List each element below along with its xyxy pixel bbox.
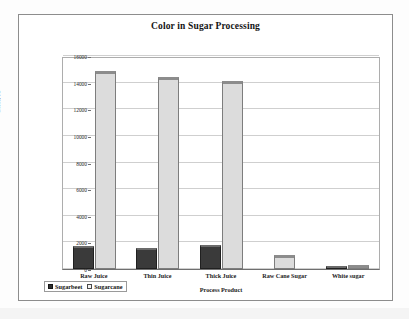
bar-sugarcane bbox=[274, 255, 295, 269]
y-axis-tick-mark bbox=[88, 217, 91, 218]
legend-swatch-sugarbeet bbox=[48, 284, 53, 289]
x-axis-category-labels: Raw JuiceThin JuiceThick JuiceRaw Cane S… bbox=[62, 272, 380, 279]
y-axis-tick-mark bbox=[88, 243, 91, 244]
bar-sugarbeet bbox=[136, 248, 157, 269]
y-axis-tick-mark bbox=[88, 190, 91, 191]
y-axis-tick-label: 2000 bbox=[76, 240, 87, 246]
plot-area bbox=[62, 57, 380, 270]
gridline bbox=[63, 55, 379, 56]
x-axis-tick-label: Thin Juice bbox=[126, 272, 190, 279]
y-axis-tick-mark bbox=[88, 164, 91, 165]
legend-label: Sugarcane bbox=[94, 283, 122, 290]
bar-group bbox=[316, 58, 379, 269]
y-axis-tick-label: 14000 bbox=[74, 81, 87, 87]
bar-group bbox=[63, 58, 126, 269]
scan-edge-artifact bbox=[0, 308, 409, 319]
x-axis-tick-label: Thick Juice bbox=[189, 272, 253, 279]
legend-label: Sugarbeet bbox=[55, 283, 82, 290]
bar-sugarbeet bbox=[73, 246, 94, 269]
bar-group bbox=[189, 58, 252, 269]
y-axis-tick-mark bbox=[88, 110, 91, 111]
figure-canvas: Color in Sugar Processing Color, IU 0200… bbox=[0, 0, 409, 319]
bar-sugarcane bbox=[95, 71, 116, 269]
y-axis-tick-mark bbox=[88, 57, 91, 58]
x-axis-tick-label: White sugar bbox=[316, 272, 380, 279]
y-axis-tick-label: 8000 bbox=[76, 161, 87, 167]
legend-item: Sugarbeet bbox=[48, 283, 82, 290]
y-axis-tick-label: 16000 bbox=[74, 54, 87, 60]
y-axis-tick-mark bbox=[88, 84, 91, 85]
bars-layer bbox=[63, 58, 379, 269]
y-axis-tick-label: 10000 bbox=[74, 134, 87, 140]
bar-sugarcane bbox=[158, 77, 179, 269]
bar-sugarcane bbox=[348, 265, 369, 269]
bar-sugarcane bbox=[222, 81, 243, 269]
y-axis-tick-mark bbox=[88, 137, 91, 138]
y-axis-title: Color, IU bbox=[0, 62, 1, 142]
y-axis-tick-label: 12000 bbox=[74, 107, 87, 113]
x-axis-tick-label: Raw Cane Sugar bbox=[253, 272, 317, 279]
y-axis-tick-label: 4000 bbox=[76, 214, 87, 220]
bar-sugarbeet bbox=[200, 245, 221, 269]
bar-group bbox=[253, 58, 316, 269]
chart-legend: SugarbeetSugarcane bbox=[44, 281, 127, 292]
chart-title: Color in Sugar Processing bbox=[18, 21, 393, 31]
bar-group bbox=[126, 58, 189, 269]
x-axis-tick-label: Raw Juice bbox=[62, 272, 126, 279]
legend-item: Sugarcane bbox=[87, 283, 122, 290]
y-axis-tick-mark bbox=[88, 270, 91, 271]
bar-sugarbeet bbox=[326, 266, 347, 269]
legend-swatch-sugarcane bbox=[87, 284, 92, 289]
y-axis-tick-label: 6000 bbox=[76, 187, 87, 193]
